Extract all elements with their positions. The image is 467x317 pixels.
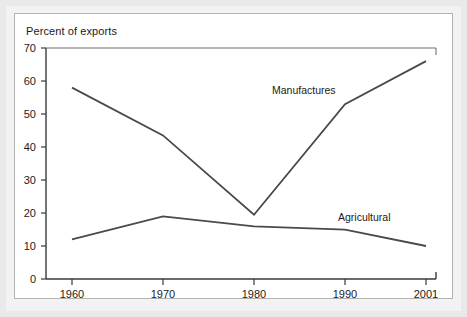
y-axis-ticks — [41, 48, 46, 279]
plot-area — [0, 0, 467, 317]
axis-frame — [46, 48, 436, 279]
chart-figure: Percent of exports — [0, 0, 467, 317]
y-tick-label: 60 — [10, 75, 36, 87]
x-tick-label: 2001 — [396, 288, 456, 300]
y-tick-label: 10 — [10, 240, 36, 252]
x-tick-label: 1980 — [224, 288, 284, 300]
y-tick-label: 70 — [10, 42, 36, 54]
x-axis-ticks — [72, 279, 426, 285]
series-label-agricultural: Agricultural — [338, 211, 391, 223]
series-line-manufactures — [72, 61, 426, 215]
y-tick-label: 30 — [10, 174, 36, 186]
y-tick-label: 50 — [10, 108, 36, 120]
x-tick-label: 1970 — [133, 288, 193, 300]
x-tick-label: 1990 — [315, 288, 375, 300]
y-tick-label: 40 — [10, 141, 36, 153]
series-label-manufactures: Manufactures — [272, 84, 336, 96]
y-tick-label: 20 — [10, 207, 36, 219]
x-tick-label: 1960 — [42, 288, 102, 300]
y-tick-label: 0 — [10, 273, 36, 285]
